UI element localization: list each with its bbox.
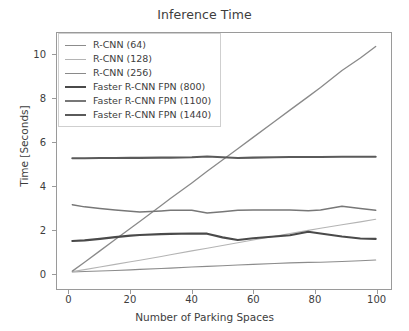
- x-tick-label: 60: [233, 294, 273, 305]
- series-line: [72, 232, 375, 241]
- legend-label: Faster R-CNN FPN (800): [93, 80, 205, 94]
- chart-legend: R-CNN (64)R-CNN (128)R-CNN (256)Faster R…: [58, 33, 221, 127]
- y-tick-label: 4: [0, 180, 46, 191]
- x-tick-mark: [253, 290, 254, 294]
- x-tick-label: 20: [110, 294, 150, 305]
- y-tick-label: 10: [0, 48, 46, 59]
- legend-item[interactable]: R-CNN (64): [63, 38, 214, 52]
- legend-label: Faster R-CNN FPN (1100): [93, 94, 211, 108]
- x-axis-label: Number of Parking Spaces: [0, 311, 409, 323]
- legend-item[interactable]: Faster R-CNN FPN (1440): [63, 108, 214, 122]
- x-tick-mark: [192, 290, 193, 294]
- legend-item[interactable]: Faster R-CNN FPN (1100): [63, 94, 214, 108]
- x-tick-mark: [130, 290, 131, 294]
- x-tick-mark: [68, 290, 69, 294]
- legend-item[interactable]: R-CNN (128): [63, 52, 214, 66]
- legend-swatch-icon: [65, 114, 86, 116]
- series-line: [72, 205, 375, 213]
- legend-swatch-icon: [65, 59, 86, 60]
- x-tick-label: 0: [48, 294, 88, 305]
- legend-label: Faster R-CNN FPN (1440): [93, 108, 211, 122]
- x-tick-mark: [315, 290, 316, 294]
- y-axis-ticks: 0246810: [0, 0, 50, 331]
- series-line: [72, 260, 375, 272]
- y-tick-label: 8: [0, 92, 46, 103]
- legend-swatch-icon: [65, 86, 86, 88]
- y-tick-label: 2: [0, 224, 46, 235]
- legend-item[interactable]: Faster R-CNN FPN (800): [63, 80, 214, 94]
- x-tick-label: 100: [357, 294, 397, 305]
- y-tick-label: 6: [0, 136, 46, 147]
- y-tick-label: 0: [0, 268, 46, 279]
- chart-title: Inference Time: [0, 7, 409, 22]
- series-line: [72, 157, 375, 159]
- legend-swatch-icon: [65, 73, 86, 74]
- legend-item[interactable]: R-CNN (256): [63, 66, 214, 80]
- legend-label: R-CNN (256): [93, 66, 152, 80]
- series-line: [72, 219, 375, 271]
- legend-swatch-icon: [65, 100, 86, 102]
- legend-label: R-CNN (128): [93, 52, 152, 66]
- legend-swatch-icon: [65, 45, 86, 46]
- x-tick-label: 40: [172, 294, 212, 305]
- chart-figure: Inference Time Time [Seconds] Number of …: [0, 0, 409, 331]
- x-tick-label: 80: [295, 294, 335, 305]
- x-tick-mark: [377, 290, 378, 294]
- legend-label: R-CNN (64): [93, 38, 146, 52]
